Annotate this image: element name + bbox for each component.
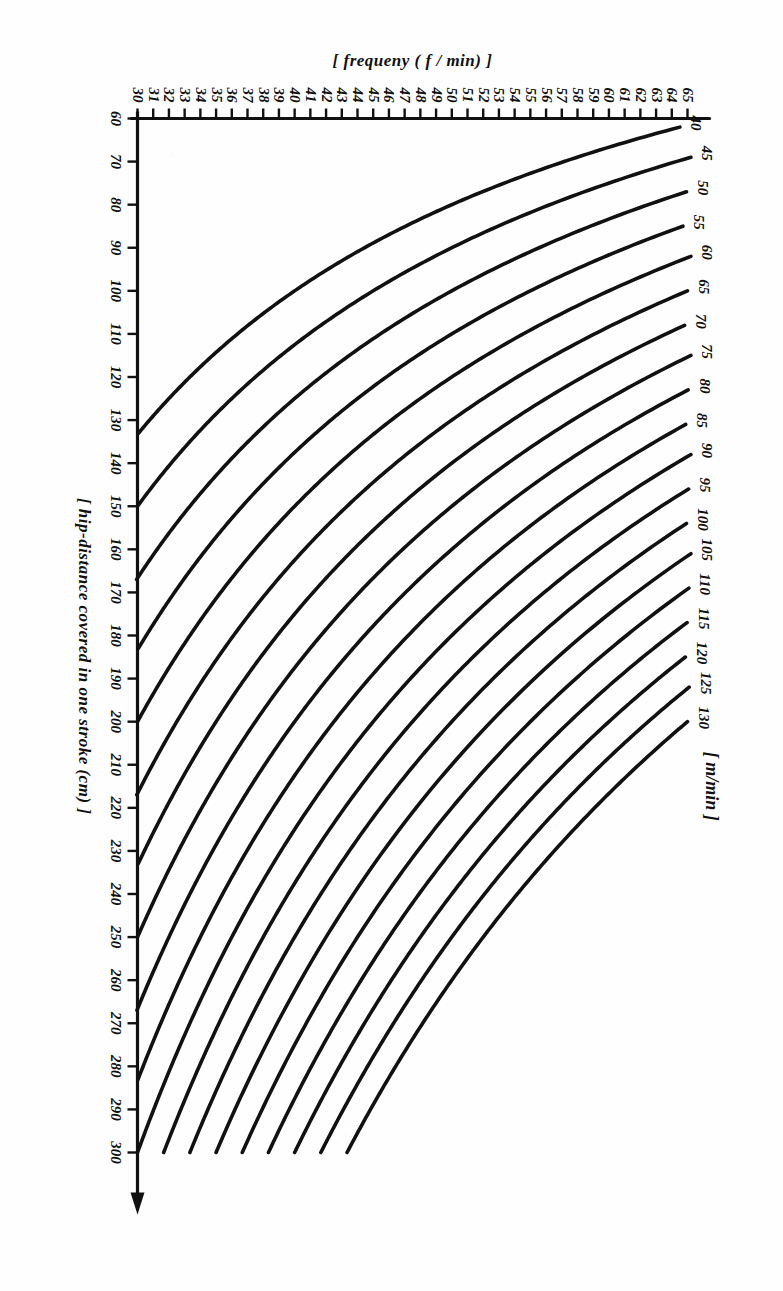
y-tick-label: 37	[239, 87, 256, 102]
y-tick-label: 48	[411, 87, 428, 102]
y-tick-label: 62	[631, 87, 648, 102]
y-tick-label: 61	[616, 87, 633, 102]
x-tick-label: 240	[106, 882, 123, 905]
y-tick-label: 43	[333, 87, 350, 102]
curve-value-label: 65	[694, 279, 711, 294]
x-tick-label: 120	[106, 365, 123, 388]
x-tick-label: 80	[106, 197, 123, 212]
y-tick-label: 54	[506, 87, 523, 102]
y-tick-label: 53	[490, 87, 507, 102]
nomogram-plot: [ hip-distance covered in one stroke (cm…	[0, 0, 783, 1291]
curve-value-label: 85	[692, 412, 709, 427]
y-tick-label: 49	[427, 87, 444, 102]
y-tick-label: 63	[647, 87, 664, 102]
x-tick-label: 190	[106, 667, 123, 690]
x-tick-label: 60	[106, 111, 123, 126]
y-tick-label: 65	[679, 87, 696, 102]
y-tick-label: 64	[663, 87, 680, 102]
x-tick-label: 230	[106, 839, 123, 862]
y-tick-label: 60	[600, 87, 617, 102]
y-tick-label: 56	[537, 87, 554, 102]
speed-curve	[268, 622, 687, 1152]
x-tick-label: 130	[106, 408, 123, 431]
curve-value-label: 80	[695, 378, 712, 393]
x-tick-label: 180	[106, 624, 123, 647]
series-unit-label: [ m/min ]	[700, 751, 721, 820]
curve-value-label: 95	[695, 477, 712, 492]
x-tick-label: 70	[106, 154, 123, 169]
speed-curve	[138, 424, 686, 1079]
speed-curve	[138, 127, 679, 433]
x-tick-label: 90	[106, 240, 123, 255]
y-tick-label: 47	[396, 87, 413, 102]
figure-page: [ hip-distance covered in one stroke (cm…	[0, 0, 783, 1291]
speed-curve	[320, 687, 688, 1152]
y-tick-label: 59	[584, 87, 601, 102]
x-tick-label: 170	[106, 581, 123, 604]
curve-value-label: 40	[686, 115, 703, 130]
speed-curve	[242, 588, 689, 1152]
y-tick-label: 34	[191, 87, 208, 102]
y-tick-label: 50	[443, 87, 460, 102]
curve-value-label: 70	[691, 313, 708, 328]
y-tick-label: 46	[380, 87, 397, 102]
curve-value-label: 110	[695, 573, 712, 595]
x-tick-label: 300	[106, 1141, 123, 1164]
y-tick-label: 58	[569, 87, 586, 102]
curve-value-label: 105	[697, 538, 714, 561]
x-tick-label: 140	[106, 451, 123, 474]
speed-curve	[137, 355, 690, 937]
x-tick-label: 110	[106, 323, 123, 345]
y-tick-label: 38	[254, 87, 271, 102]
speed-curve	[136, 191, 686, 579]
x-tick-label: 160	[106, 538, 123, 561]
y-tick-label: 52	[474, 87, 491, 102]
y-tick-label: 35	[207, 87, 224, 102]
speed-curve	[163, 489, 688, 1152]
curve-value-label: 50	[693, 180, 710, 195]
x-tick-label: 270	[106, 1012, 123, 1035]
y-tick-label: 31	[144, 87, 161, 102]
y-tick-label: 57	[553, 87, 570, 102]
y-tick-label: 45	[364, 87, 381, 102]
curve-value-label: 120	[692, 641, 709, 664]
x-axis-arrowhead	[130, 1192, 144, 1214]
speed-curve	[136, 389, 687, 1009]
speed-curve	[137, 157, 690, 506]
x-tick-label: 290	[106, 1098, 123, 1121]
y-tick-label: 55	[521, 87, 538, 102]
curve-value-label: 75	[697, 343, 714, 358]
x-tick-label: 210	[106, 753, 123, 776]
y-tick-label: 41	[301, 87, 318, 102]
curve-value-label: 55	[689, 214, 706, 229]
y-tick-label: 39	[270, 87, 287, 102]
rotated-figure-wrapper: [ hip-distance covered in one stroke (cm…	[0, 0, 783, 1291]
x-tick-label: 200	[106, 710, 123, 733]
curve-value-label: 125	[696, 671, 713, 694]
y-tick-label: 44	[349, 87, 366, 102]
curve-value-label: 100	[693, 508, 710, 531]
x-tick-label: 280	[106, 1055, 123, 1078]
x-tick-label: 150	[106, 495, 123, 518]
speed-curve	[189, 523, 686, 1152]
x-tick-label: 220	[106, 796, 123, 819]
x-tick-label: 260	[106, 968, 123, 991]
curve-value-label: 60	[697, 244, 714, 259]
y-tick-label: 30	[129, 87, 146, 102]
y-tick-label: 33	[176, 87, 193, 102]
y-axis-label: [ frequeny ( f / min) ]	[332, 50, 492, 70]
x-tick-label: 100	[106, 279, 123, 302]
speed-curve	[137, 454, 690, 1152]
y-tick-label: 32	[160, 87, 177, 102]
x-axis-label: [ hip-distance covered in one stroke (cm…	[73, 497, 93, 814]
curve-value-label: 90	[697, 443, 714, 458]
speed-curve	[294, 657, 685, 1152]
y-tick-label: 40	[286, 87, 303, 102]
curve-value-label: 45	[697, 145, 714, 160]
curve-value-label: 115	[694, 607, 711, 629]
y-tick-label: 42	[317, 87, 334, 102]
curve-value-label: 130	[694, 706, 711, 729]
y-tick-label: 36	[223, 87, 240, 102]
y-tick-label: 51	[459, 87, 476, 102]
x-tick-label: 250	[106, 925, 123, 948]
